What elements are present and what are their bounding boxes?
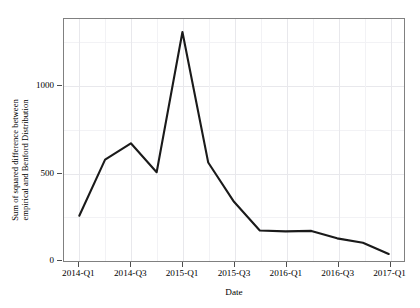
y-axis-tick-mark bbox=[57, 173, 62, 174]
line-series bbox=[64, 19, 404, 261]
y-axis-tick-label: 0 bbox=[14, 255, 58, 265]
x-axis-tick-mark bbox=[130, 262, 131, 267]
x-axis-tick-mark bbox=[234, 262, 235, 267]
x-axis-tick-mark bbox=[338, 262, 339, 267]
y-axis-tick-mark bbox=[57, 260, 62, 261]
x-axis-tick-label: 2016-Q3 bbox=[321, 268, 354, 278]
x-axis-tick-label: 2014-Q3 bbox=[114, 268, 147, 278]
y-axis-tick-labels: 05001000 bbox=[14, 0, 58, 308]
chart-figure: Sum of squared difference between empiri… bbox=[0, 0, 420, 308]
x-axis-tick-label: 2014-Q1 bbox=[62, 268, 95, 278]
x-axis-tick-label: 2015-Q1 bbox=[166, 268, 199, 278]
x-axis-tick-mark bbox=[286, 262, 287, 267]
y-axis-tick-label: 1000 bbox=[14, 80, 58, 90]
x-axis-tick-label: 2015-Q3 bbox=[218, 268, 251, 278]
x-axis-tick-mark bbox=[182, 262, 183, 267]
x-axis-tick-label: 2017-Q1 bbox=[373, 268, 406, 278]
x-axis-tick-mark bbox=[78, 262, 79, 267]
x-axis-tick-label: 2016-Q1 bbox=[270, 268, 303, 278]
y-axis-tick-label: 500 bbox=[14, 168, 58, 178]
plot-panel bbox=[63, 18, 405, 262]
x-axis-title: Date bbox=[63, 287, 405, 297]
series-polyline bbox=[79, 32, 388, 254]
x-axis-tick-mark bbox=[390, 262, 391, 267]
y-axis-tick-mark bbox=[57, 85, 62, 86]
